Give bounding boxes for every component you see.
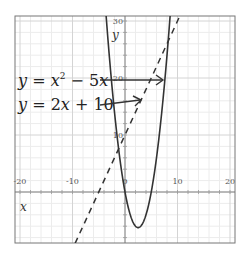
parabola-equation-label: y = x2 − 5x (17, 71, 108, 90)
annotation-line: y = 2x + 10 (17, 95, 141, 114)
x-tick-label: 20 (225, 177, 235, 186)
annotation-parabola: y = x2 − 5x (17, 71, 163, 90)
x-axis-label: x (20, 200, 27, 214)
y-axis-label: y (111, 28, 119, 42)
x-tick-label: -10 (66, 177, 79, 186)
linear-dashed-line (75, 15, 180, 243)
axes (15, 16, 235, 243)
curves (75, 0, 180, 243)
y-tick-label: 20 (113, 74, 123, 83)
function-graph: -20-1001020102030 y x y = x2 − 5x y = 2x… (0, 0, 246, 253)
x-tick-label: 10 (172, 177, 182, 186)
y-tick-label: 30 (113, 17, 123, 26)
line-equation-label: y = 2x + 10 (17, 95, 114, 114)
